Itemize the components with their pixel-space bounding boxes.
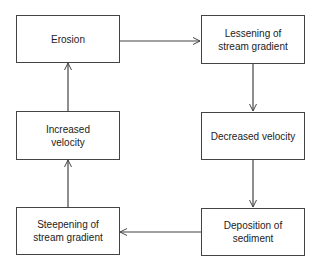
node-label-line-1: Lessening of [218, 27, 287, 40]
node-label-line-2: velocity [46, 136, 90, 149]
node-label-line-1: Steepening of [33, 218, 102, 231]
node-decreased-velocity: Decreased velocity [201, 112, 305, 160]
node-lessening-of-stream-gradient: Lessening of stream gradient [201, 15, 305, 64]
node-steepening-of-stream-gradient: Steepening of stream gradient [16, 207, 120, 255]
node-label: Decreased velocity [211, 131, 295, 142]
node-label: Erosion [51, 34, 85, 45]
node-label-line-2: stream gradient [218, 40, 287, 53]
node-label-line-1: Increased [46, 123, 90, 136]
node-deposition-of-sediment: Deposition of sediment [201, 208, 305, 256]
node-label-line-2: sediment [224, 232, 282, 245]
node-erosion: Erosion [16, 15, 120, 63]
node-increased-velocity: Increased velocity [16, 111, 120, 160]
node-label-line-2: stream gradient [33, 231, 102, 244]
node-label-line-1: Deposition of [224, 219, 282, 232]
